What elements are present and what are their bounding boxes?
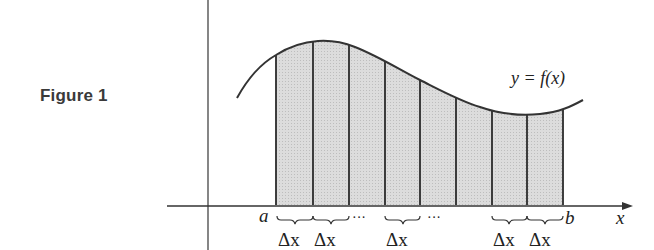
- delta-x-label-4: Δx: [493, 229, 515, 250]
- ellipsis-2: ···: [427, 210, 441, 225]
- right-endpoint-b: b: [565, 207, 575, 228]
- delta-x-label-5: Δx: [529, 229, 551, 250]
- delta-x-label-1: Δx: [278, 229, 300, 250]
- delta-x-label-2: Δx: [314, 229, 336, 250]
- ellipsis-1: ···: [352, 210, 366, 225]
- curve-label: y = f(x): [509, 68, 565, 89]
- riemann-sum-diagram: x y = f(x) a b ··· ··· Δx Δx Δx Δx Δx: [0, 0, 654, 250]
- delta-x-label-3: Δx: [386, 229, 408, 250]
- left-endpoint-a: a: [259, 205, 269, 226]
- x-axis-label: x: [615, 207, 625, 228]
- delta-braces: [277, 216, 563, 224]
